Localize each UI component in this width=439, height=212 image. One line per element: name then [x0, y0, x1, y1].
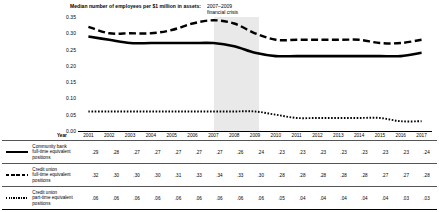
data-cell: .06 [126, 187, 147, 210]
table-row: Credit unionpart-time equivalentposition… [2, 187, 437, 210]
data-cell: .33 [230, 164, 251, 187]
y-tick-label: 0.25 [58, 48, 76, 53]
data-cell: .29 [85, 141, 106, 164]
x-tick-label: 2017 [416, 133, 426, 138]
y-tick-label: 0.05 [58, 113, 76, 118]
plot-canvas [78, 17, 432, 131]
x-tick-label: 2006 [187, 133, 197, 138]
table-row: Credit unionfull-time equivalentposition… [2, 164, 437, 187]
series-label: Credit unionpart-time equivalentposition… [32, 187, 85, 210]
data-cell: .30 [147, 164, 168, 187]
legend-swatch-cell [2, 141, 32, 164]
x-tick-label: 2016 [396, 133, 406, 138]
table-row: Community bankfull-time equivalentpositi… [2, 141, 437, 164]
data-cell: .23 [271, 141, 292, 164]
series-label-line: positions [32, 201, 85, 207]
data-cell: .23 [375, 141, 396, 164]
y-tick-label: 0.10 [58, 96, 76, 101]
data-cell: .26 [230, 141, 251, 164]
data-cell: .28 [416, 164, 437, 187]
series-label-line: positions [32, 155, 85, 161]
legend-line-icon [6, 197, 28, 199]
legend-line-icon [6, 151, 28, 153]
data-cell: .30 [106, 164, 127, 187]
data-cell: .27 [126, 141, 147, 164]
y-tick-label: 0.35 [58, 15, 76, 20]
data-cell: .33 [188, 164, 209, 187]
data-cell: .03 [395, 187, 416, 210]
data-table: Community bankfull-time equivalentpositi… [2, 140, 437, 210]
x-axis-label: Year [57, 133, 67, 138]
x-tick-label: 2014 [354, 133, 364, 138]
data-cell: .32 [85, 164, 106, 187]
y-tick-label: 0.30 [58, 31, 76, 36]
series-line [88, 111, 421, 121]
x-tick-label: 2005 [166, 133, 176, 138]
data-cell: .24 [416, 141, 437, 164]
x-tick-label: 2003 [125, 133, 135, 138]
data-cell: .27 [395, 164, 416, 187]
data-cell: .30 [250, 164, 271, 187]
data-cell: .28 [313, 164, 334, 187]
data-cell: .06 [230, 187, 251, 210]
data-cell: .34 [209, 164, 230, 187]
data-cell: .28 [292, 164, 313, 187]
data-cell: .04 [292, 187, 313, 210]
crisis-annotation: 2007–2009 financial crisis [207, 3, 277, 16]
series-line [88, 37, 421, 57]
x-tick-label: 2001 [83, 133, 93, 138]
y-tick-label: 0.20 [58, 64, 76, 69]
data-cell: .28 [271, 164, 292, 187]
data-cell: .23 [313, 141, 334, 164]
data-cell: .23 [333, 141, 354, 164]
data-cell: .06 [147, 187, 168, 210]
series-lines [78, 17, 432, 131]
x-tick-label: 2011 [292, 133, 302, 138]
data-cell: .04 [375, 187, 396, 210]
x-tick-label: 2007 [208, 133, 218, 138]
data-cell: .27 [147, 141, 168, 164]
legend-swatch-cell [2, 187, 32, 210]
data-cell: .28 [106, 141, 127, 164]
legend-swatch-cell [2, 164, 32, 187]
figure-root: Median number of employees per $1 millio… [0, 0, 439, 212]
chart-area: Median number of employees per $1 millio… [0, 0, 439, 140]
data-cell: .30 [126, 164, 147, 187]
data-cell: .06 [250, 187, 271, 210]
data-cell: .31 [168, 164, 189, 187]
legend-data-table: Community bankfull-time equivalentpositi… [2, 140, 437, 210]
data-cell: .23 [395, 141, 416, 164]
x-tick-label: 2012 [312, 133, 322, 138]
series-line [88, 20, 421, 43]
data-cell: .06 [168, 187, 189, 210]
x-tick-label: 2010 [271, 133, 281, 138]
data-cell: .23 [354, 141, 375, 164]
x-tick-label: 2013 [333, 133, 343, 138]
y-tick-label: 0.15 [58, 80, 76, 85]
data-cell: .06 [85, 187, 106, 210]
data-cell: .05 [271, 187, 292, 210]
data-cell: .27 [375, 164, 396, 187]
series-label: Credit unionfull-time equivalentposition… [32, 164, 85, 187]
data-cell: .04 [354, 187, 375, 210]
data-cell: .03 [416, 187, 437, 210]
data-cell: .06 [188, 187, 209, 210]
data-cell: .04 [313, 187, 334, 210]
x-tick-label: 2009 [250, 133, 260, 138]
series-label: Community bankfull-time equivalentpositi… [32, 141, 85, 164]
data-cell: .23 [292, 141, 313, 164]
data-cell: .06 [106, 187, 127, 210]
x-tick-label: 2002 [104, 133, 114, 138]
x-tick-label: 2008 [229, 133, 239, 138]
data-cell: .24 [250, 141, 271, 164]
series-label-line: positions [32, 178, 85, 184]
x-tick-label: 2015 [375, 133, 385, 138]
crisis-annotation-line2: financial crisis [207, 9, 277, 15]
x-tick-label: 2004 [146, 133, 156, 138]
legend-line-icon [6, 174, 28, 176]
data-cell: .28 [333, 164, 354, 187]
data-cell: .27 [188, 141, 209, 164]
data-cell: .04 [333, 187, 354, 210]
data-cell: .28 [354, 164, 375, 187]
data-cell: .27 [168, 141, 189, 164]
